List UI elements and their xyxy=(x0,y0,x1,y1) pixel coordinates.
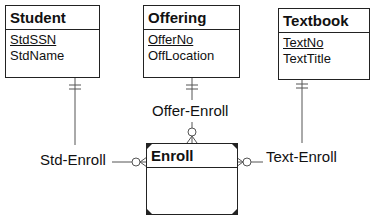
attribute: TextTitle xyxy=(283,51,369,67)
entity-textbook: Textbook TextNo TextTitle xyxy=(278,8,370,80)
entity-attributes: TextNo TextTitle xyxy=(279,33,369,67)
corner-mark-top-right xyxy=(231,143,238,150)
relationship-label-offer-enroll: Offer-Enroll xyxy=(152,102,228,119)
entity-attributes: StdSSN StdName xyxy=(6,30,99,64)
text-zero-circle xyxy=(243,158,251,166)
primary-key-attribute: OfferNo xyxy=(148,32,239,48)
entity-offering: Offering OfferNo OffLocation xyxy=(143,5,240,78)
relationship-label-std-enroll: Std-Enroll xyxy=(40,151,106,168)
std-zero-circle xyxy=(132,158,140,166)
relationship-label-text-enroll: Text-Enroll xyxy=(266,148,337,165)
attribute: StdName xyxy=(10,48,99,64)
offer-zero-circle xyxy=(188,128,196,136)
entity-student: Student StdSSN StdName xyxy=(5,5,100,78)
primary-key-attribute: StdSSN xyxy=(10,32,99,48)
entity-enroll: Enroll xyxy=(146,143,238,215)
corner-mark-top-left xyxy=(146,143,153,150)
entity-title: Textbook xyxy=(279,9,369,33)
primary-key-attribute: TextNo xyxy=(283,35,369,51)
attribute: OffLocation xyxy=(148,48,239,64)
weak-entity-corner-marks xyxy=(146,143,238,215)
corner-mark-bottom-right xyxy=(231,208,238,215)
entity-title: Offering xyxy=(144,6,239,30)
corner-mark-bottom-left xyxy=(146,208,153,215)
entity-attributes: OfferNo OffLocation xyxy=(144,30,239,64)
entity-title: Student xyxy=(6,6,99,30)
